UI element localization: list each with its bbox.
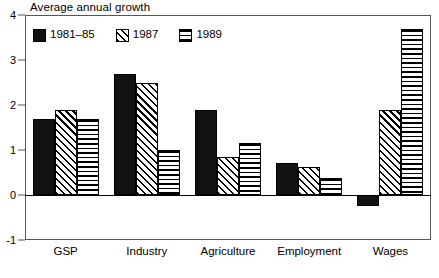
y-tick-label: 0 bbox=[10, 190, 16, 201]
bar-chart: Average annual growth -101234 1981–85198… bbox=[0, 0, 439, 278]
legend-item: 1989 bbox=[179, 27, 222, 43]
bar bbox=[401, 29, 423, 196]
y-tick-label: -1 bbox=[6, 235, 16, 246]
legend-label: 1989 bbox=[196, 29, 222, 41]
bar-group bbox=[276, 15, 342, 240]
bar-group bbox=[357, 15, 423, 240]
y-tick-label: 4 bbox=[10, 10, 16, 21]
bar-group bbox=[114, 15, 180, 240]
bar bbox=[33, 119, 55, 196]
bar bbox=[55, 110, 77, 196]
bar bbox=[114, 74, 136, 196]
bar-group bbox=[33, 15, 99, 240]
y-tick-label: 3 bbox=[10, 55, 16, 66]
legend-label: 1981–85 bbox=[50, 29, 95, 41]
legend-item: 1981–85 bbox=[33, 27, 95, 43]
legend-swatch-diagonal-hatch bbox=[116, 29, 129, 42]
bar bbox=[217, 157, 239, 195]
y-tick-mark bbox=[18, 105, 25, 106]
y-axis: -101234 bbox=[0, 15, 25, 240]
y-tick-mark bbox=[18, 60, 25, 61]
bar bbox=[195, 110, 217, 196]
bar bbox=[379, 110, 401, 196]
y-tick-label: 2 bbox=[10, 100, 16, 111]
y-tick-mark bbox=[18, 195, 25, 196]
legend-swatch-horizontal-lines bbox=[179, 29, 192, 42]
chart-title: Average annual growth bbox=[30, 1, 150, 13]
y-tick-mark bbox=[18, 15, 25, 16]
legend-label: 1987 bbox=[133, 29, 159, 41]
bar bbox=[357, 195, 379, 206]
x-axis: GSPIndustryAgricultureEmploymentWages bbox=[25, 246, 431, 266]
y-tick-label: 1 bbox=[10, 145, 16, 156]
legend-item: 1987 bbox=[116, 27, 159, 43]
bar-group bbox=[195, 15, 261, 240]
bar bbox=[136, 83, 158, 196]
legend: 1981–8519871989 bbox=[33, 27, 222, 43]
y-tick-mark bbox=[18, 150, 25, 151]
bar bbox=[320, 178, 342, 195]
legend-swatch-solid bbox=[33, 29, 46, 42]
bar bbox=[298, 167, 320, 195]
bar bbox=[239, 143, 261, 195]
plot-area bbox=[25, 15, 431, 240]
bar bbox=[158, 150, 180, 195]
x-tick-label: Industry bbox=[126, 246, 167, 258]
x-tick-label: Wages bbox=[373, 246, 408, 258]
x-tick-label: Employment bbox=[277, 246, 341, 258]
bar bbox=[276, 163, 298, 195]
x-tick-label: Agriculture bbox=[201, 246, 256, 258]
y-tick-mark bbox=[18, 240, 25, 241]
x-tick-label: GSP bbox=[53, 246, 77, 258]
bar bbox=[77, 119, 99, 196]
